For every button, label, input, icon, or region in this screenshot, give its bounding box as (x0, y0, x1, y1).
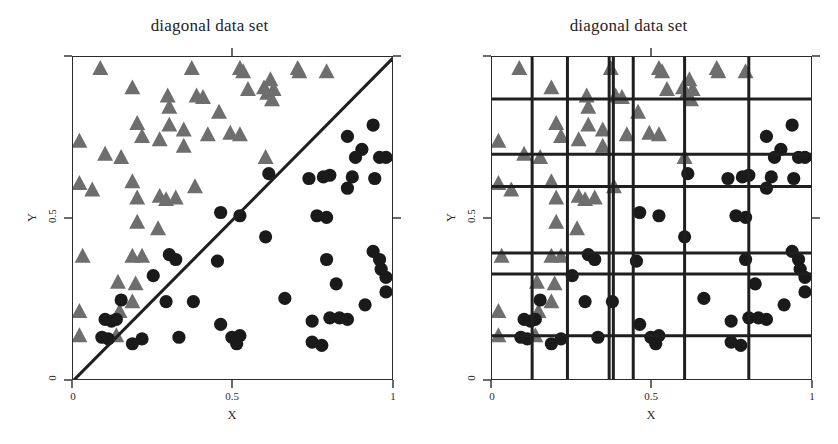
data-point-triangle (494, 248, 510, 263)
data-point-circle (652, 209, 665, 222)
data-point-triangle (211, 104, 227, 119)
figure-container: diagonal data set 0 0.5 1 X 0 0.5 Y diag… (0, 0, 838, 444)
data-point-circle (315, 339, 328, 352)
data-point-circle (187, 295, 200, 308)
data-point-circle (341, 313, 354, 326)
data-point-circle (760, 182, 773, 195)
data-point-circle (368, 172, 381, 185)
data-point-triangle (92, 60, 108, 75)
data-point-circle (115, 293, 128, 306)
data-point-triangle (152, 131, 168, 146)
data-point-circle (765, 170, 778, 183)
data-point-circle (749, 277, 762, 290)
data-point-triangle (134, 128, 150, 143)
data-point-circle (760, 130, 773, 143)
panel-right-markers (492, 57, 812, 380)
data-point-triangle (511, 60, 527, 75)
data-point-circle (778, 298, 791, 311)
data-point-triangle (129, 115, 145, 130)
panel-right: diagonal data set 0 0.5 1 X 0 0.5 Y (419, 0, 838, 444)
data-point-circle (320, 211, 333, 224)
panel-left-ytick-1: 0.5 (46, 204, 58, 228)
data-point-circle (798, 285, 811, 298)
data-point-triangle (548, 190, 564, 205)
data-point-circle (330, 277, 343, 290)
data-point-circle (341, 130, 354, 143)
data-point-triangle (113, 149, 129, 164)
data-point-circle (346, 170, 359, 183)
data-point-circle (379, 271, 392, 284)
data-point-circle (633, 318, 646, 331)
data-point-circle (379, 285, 392, 298)
data-point-triangle (491, 303, 506, 318)
data-point-circle (323, 169, 336, 182)
data-point-circle (320, 253, 333, 266)
data-point-triangle (580, 117, 596, 132)
data-point-circle (379, 151, 392, 164)
data-point-triangle (161, 117, 177, 132)
panel-right-xtick-1: 0.5 (639, 390, 663, 402)
panel-left-title: diagonal data set (0, 16, 419, 36)
panel-left-ytick-0: 0 (46, 370, 58, 386)
data-point-triangle (72, 175, 87, 190)
data-point-triangle (72, 133, 87, 148)
panel-left-markers (73, 57, 393, 380)
data-point-circle (359, 298, 372, 311)
data-point-triangle (129, 190, 145, 205)
data-point-circle (302, 172, 315, 185)
data-point-triangle (72, 303, 87, 318)
data-point-circle (214, 206, 227, 219)
data-point-circle (588, 253, 601, 266)
data-point-circle (786, 118, 799, 131)
data-point-circle (697, 292, 710, 305)
data-point-circle (341, 182, 354, 195)
data-point-circle (633, 206, 646, 219)
panel-right-ytick-1: 0.5 (465, 204, 477, 228)
panel-right-title: diagonal data set (419, 16, 838, 36)
data-point-circle (135, 332, 148, 345)
data-point-circle (278, 292, 291, 305)
data-point-circle (169, 253, 182, 266)
data-point-triangle (97, 146, 113, 161)
data-point-triangle (532, 149, 548, 164)
data-point-triangle (134, 248, 150, 263)
data-point-triangle (124, 79, 140, 94)
data-point-circle (172, 331, 185, 344)
data-point-triangle (200, 126, 216, 141)
data-point-triangle (738, 63, 754, 78)
data-point-circle (259, 230, 272, 243)
data-point-circle (233, 329, 246, 342)
data-point-triangle (160, 87, 176, 102)
data-point-triangle (129, 214, 145, 229)
panel-left-xtick-2: 1 (386, 390, 400, 402)
data-point-circle (211, 255, 224, 268)
data-point-triangle (110, 274, 126, 289)
panel-left-xtick-1: 0.5 (220, 390, 244, 402)
data-point-triangle (659, 81, 675, 96)
data-point-circle (760, 313, 773, 326)
data-point-triangle (547, 275, 563, 290)
data-point-circle (110, 313, 123, 326)
data-point-triangle (262, 71, 278, 86)
panel-left-plot-area (72, 56, 393, 380)
panel-right-ytick-0: 0 (465, 370, 477, 386)
panel-right-ylabel: Y (444, 206, 459, 230)
data-point-triangle (491, 133, 506, 148)
data-point-circle (367, 118, 380, 131)
data-point-triangle (168, 190, 184, 205)
data-point-circle (725, 314, 738, 327)
panel-right-xlabel: X (615, 408, 687, 423)
data-point-triangle (571, 131, 587, 146)
data-point-circle (159, 295, 172, 308)
data-point-triangle (187, 178, 203, 193)
panel-left-xtick-0: 0 (66, 390, 80, 402)
data-point-triangle (548, 115, 564, 130)
data-point-triangle (543, 79, 559, 94)
data-point-triangle (75, 248, 91, 263)
data-point-triangle (184, 60, 200, 75)
panel-right-xtick-2: 1 (805, 390, 819, 402)
panel-right-xtick-0: 0 (485, 390, 499, 402)
data-point-triangle (240, 81, 256, 96)
data-point-circle (721, 172, 734, 185)
data-point-triangle (548, 214, 564, 229)
